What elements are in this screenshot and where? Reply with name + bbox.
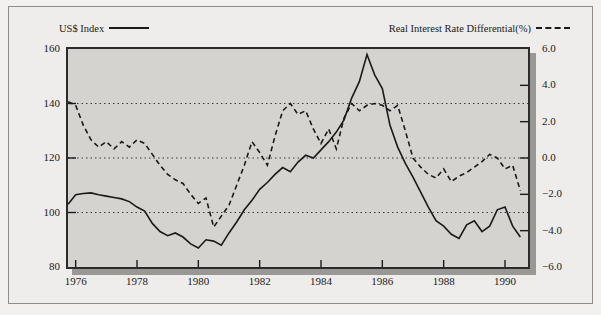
x-axis-tick-label: 1988: [419, 275, 469, 287]
plot-area: [66, 47, 530, 269]
x-axis-tick-label: 1978: [112, 275, 162, 287]
left-axis-tick-label: 100: [26, 206, 60, 218]
gridlines: [68, 104, 528, 213]
chart-canvas: [68, 49, 528, 267]
legend-label-real-interest-rate-differential: Real Interest Rate Differential(%): [389, 23, 531, 34]
x-axis-tick-label: 1986: [357, 275, 407, 287]
legend-item-real-interest-rate-differential: Real Interest Rate Differential(%): [389, 21, 570, 35]
x-axis-tick-label: 1982: [235, 275, 285, 287]
left-axis-tick-label: 140: [26, 97, 60, 109]
left-axis-tick-label: 160: [26, 42, 60, 54]
right-axis-ticks: [520, 85, 528, 230]
left-axis-tick-label: 80: [26, 260, 60, 272]
right-axis-tick-label: 6.0: [542, 42, 578, 54]
series-line-real-interest-rate-differential: [68, 102, 520, 227]
right-axis-tick-label: 4.0: [542, 78, 578, 90]
right-axis-tick-label: −4.0: [542, 224, 578, 236]
series-line-usd-index: [68, 54, 520, 247]
legend-label-usd-index: US$ Index: [59, 23, 104, 34]
x-axis-tick-label: 1976: [51, 275, 101, 287]
legend-item-usd-index: US$ Index: [59, 21, 149, 35]
legend-swatch-solid-line: [109, 27, 149, 29]
x-axis-tick-label: 1990: [480, 275, 530, 287]
x-axis-tick-label: 1980: [173, 275, 223, 287]
x-axis-tick-label: 1984: [296, 275, 346, 287]
left-axis-tick-label: 120: [26, 151, 60, 163]
right-axis-tick-label: −2.0: [542, 187, 578, 199]
right-axis-tick-label: 2.0: [542, 115, 578, 127]
right-axis-tick-label: −6.0: [542, 260, 578, 272]
bottom-axis-ticks: [76, 260, 505, 267]
chart-panel: US$ Index Real Interest Rate Differentia…: [8, 6, 593, 304]
legend-swatch-dashed-line: [536, 27, 570, 29]
right-axis-tick-label: 0.0: [542, 151, 578, 163]
